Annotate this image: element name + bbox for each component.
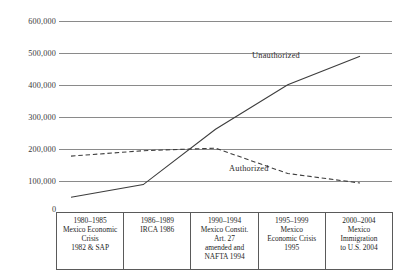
event-cell-1995-1999: 1995–1999 Mexico Economic Crisis 1995 bbox=[259, 213, 326, 269]
ytick-label-400000: 400,000 bbox=[2, 81, 56, 90]
series-label-authorized: Authorized bbox=[229, 164, 269, 173]
event-line: Mexico Constit. bbox=[193, 225, 255, 234]
event-line: 1990–1994 bbox=[193, 216, 255, 225]
ytick-label-0: 0 bbox=[42, 205, 56, 214]
series-line-authorized bbox=[71, 148, 360, 183]
event-line: 1980–1985 bbox=[59, 216, 121, 225]
event-cell-1980-1985: 1980–1985 Mexico Economic Crisis 1982 & … bbox=[57, 213, 124, 269]
event-line: 1986–1989 bbox=[126, 216, 188, 225]
series-line-unauthorized bbox=[71, 56, 360, 197]
ytick-label-600000: 600,000 bbox=[2, 17, 56, 26]
event-line: IRCA 1986 bbox=[126, 225, 188, 234]
event-cell-1986-1989: 1986–1989 IRCA 1986 bbox=[124, 213, 191, 269]
event-line: Crisis bbox=[59, 234, 121, 243]
event-line: Mexico Economic bbox=[59, 225, 121, 234]
gridlines bbox=[59, 22, 392, 182]
ytick-label-500000: 500,000 bbox=[2, 49, 56, 58]
ytick-label-200000: 200,000 bbox=[2, 145, 56, 154]
event-line: to U.S. 2004 bbox=[328, 243, 390, 252]
event-timeline-table: 1980–1985 Mexico Economic Crisis 1982 & … bbox=[56, 212, 393, 270]
event-line: Mexico bbox=[328, 225, 390, 234]
event-line: 2000–2004 bbox=[328, 216, 390, 225]
event-line: Art. 27 bbox=[193, 234, 255, 243]
event-line: Mexico bbox=[261, 225, 323, 234]
event-line: amended and bbox=[193, 243, 255, 252]
series-label-unauthorized: Unauthorized bbox=[252, 51, 300, 60]
ytick-label-100000: 100,000 bbox=[2, 177, 56, 186]
event-line: 1995–1999 bbox=[261, 216, 323, 225]
event-line: Immigration bbox=[328, 234, 390, 243]
event-cell-2000-2004: 2000–2004 Mexico Immigration to U.S. 200… bbox=[326, 213, 392, 269]
event-line: 1982 & SAP bbox=[59, 243, 121, 252]
event-cell-1990-1994: 1990–1994 Mexico Constit. Art. 27 amende… bbox=[191, 213, 258, 269]
event-line: NAFTA 1994 bbox=[193, 252, 255, 261]
event-line: 1995 bbox=[261, 243, 323, 252]
event-line: Economic Crisis bbox=[261, 234, 323, 243]
ytick-label-300000: 300,000 bbox=[2, 113, 56, 122]
